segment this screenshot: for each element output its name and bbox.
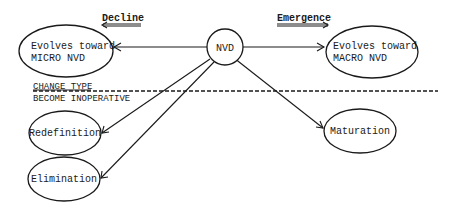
nvd-node: NVD xyxy=(207,29,243,65)
elimination-node: Elimination xyxy=(28,157,100,201)
edge-nvd-to-maturation xyxy=(234,58,323,128)
become-inoperative-label: BECOME INOPERATIVE xyxy=(33,94,130,104)
maturation-node: Maturation xyxy=(324,109,396,153)
edge-nvd-to-elimination xyxy=(101,62,214,178)
macro-nvd-line1: Evolves toward xyxy=(333,41,417,52)
micro-nvd-node: Evolves toward MICRO NVD xyxy=(19,25,115,77)
maturation-label: Maturation xyxy=(330,126,390,137)
redefinition-label: Redefinition xyxy=(29,128,101,139)
nvd-evolution-diagram: Decline Emergence CHANGE TYPE BECOME INO… xyxy=(0,0,457,215)
redefinition-node: Redefinition xyxy=(29,111,101,155)
edges xyxy=(101,43,324,178)
micro-nvd-line2: MICRO NVD xyxy=(31,53,85,64)
macro-nvd-line2: MACRO NVD xyxy=(333,53,387,64)
emergence-heading: Emergence xyxy=(277,13,331,28)
micro-nvd-line1: Evolves toward xyxy=(31,41,115,52)
divider: CHANGE TYPE BECOME INOPERATIVE xyxy=(33,82,438,104)
macro-nvd-ellipse xyxy=(326,26,418,78)
nvd-label: NVD xyxy=(216,43,234,54)
decline-heading: Decline xyxy=(102,13,144,28)
elimination-label: Elimination xyxy=(31,174,97,185)
decline-label: Decline xyxy=(102,13,144,24)
macro-nvd-node: Evolves toward MACRO NVD xyxy=(326,26,418,78)
